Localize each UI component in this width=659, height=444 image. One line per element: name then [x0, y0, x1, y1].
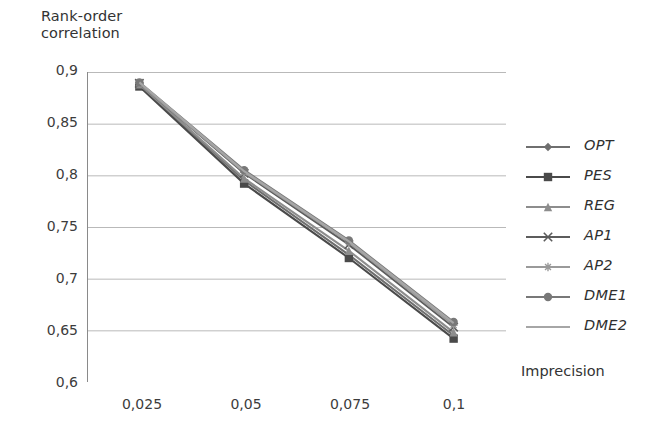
y-axis-title-line1: Rank-order: [41, 8, 122, 24]
y-tick-label: 0,65: [20, 322, 78, 338]
y-tick-label: 0,6: [20, 374, 78, 390]
legend-label: AP1: [584, 227, 613, 243]
legend: OPT PES REG AP1 AP2 DME1 DME2: [524, 132, 656, 342]
legend-label: DME2: [584, 317, 627, 333]
legend-label: AP2: [584, 257, 613, 273]
y-axis-title: Rank-ordercorrelation: [41, 8, 122, 42]
legend-item-ap1[interactable]: AP1: [524, 222, 656, 252]
x-tick-label: 0,1: [419, 396, 489, 412]
legend-marker-star-icon: [524, 252, 574, 282]
chart-container: Rank-ordercorrelation 0,9 0,85 0,8 0,75 …: [0, 0, 659, 444]
legend-marker-diamond-icon: [524, 132, 574, 162]
legend-label: OPT: [584, 137, 614, 153]
y-tick-label: 0,75: [20, 218, 78, 234]
legend-item-opt[interactable]: OPT: [524, 132, 656, 162]
y-tick-label: 0,85: [20, 114, 78, 130]
y-tick-label: 0,9: [20, 62, 78, 78]
legend-item-dme1[interactable]: DME1: [524, 282, 656, 312]
legend-label: DME1: [584, 287, 627, 303]
y-tick-label: 0,8: [20, 166, 78, 182]
legend-item-pes[interactable]: PES: [524, 162, 656, 192]
legend-label: REG: [584, 197, 615, 213]
legend-marker-square-icon: [524, 162, 574, 192]
legend-marker-circle-icon: [524, 282, 574, 312]
legend-label: PES: [584, 167, 612, 183]
plot-svg: [87, 72, 506, 382]
x-tick-label: 0,025: [107, 396, 177, 412]
legend-item-ap2[interactable]: AP2: [524, 252, 656, 282]
legend-marker-triangle-icon: [524, 192, 574, 222]
x-tick-label: 0,075: [315, 396, 385, 412]
legend-item-dme2[interactable]: DME2: [524, 312, 656, 342]
legend-marker-line-icon: [524, 312, 574, 342]
y-tick-label: 0,7: [20, 270, 78, 286]
y-axis-title-line2: correlation: [41, 25, 120, 41]
x-axis-title: Imprecision: [521, 363, 605, 379]
x-tick-label: 0,05: [211, 396, 281, 412]
legend-marker-cross-icon: [524, 222, 574, 252]
plot-area: [87, 72, 506, 382]
legend-item-reg[interactable]: REG: [524, 192, 656, 222]
